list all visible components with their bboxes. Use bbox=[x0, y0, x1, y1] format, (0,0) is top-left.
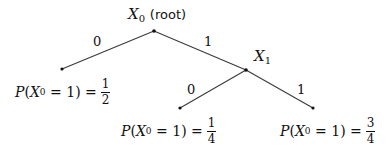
prob-equals: = bbox=[191, 124, 203, 138]
prob-fraction: 3 4 bbox=[366, 117, 376, 145]
x1-subscript: 1 bbox=[265, 55, 271, 66]
leaf-right-probability: P(X0 = 1) = 3 4 bbox=[280, 117, 375, 145]
prob-subscript: 0 bbox=[40, 88, 46, 97]
edge-root-left bbox=[62, 31, 154, 69]
node-leaf-right bbox=[311, 106, 314, 109]
close-paren: ) bbox=[181, 124, 186, 138]
prob-equals: = bbox=[350, 124, 362, 138]
close-paren: ) bbox=[340, 124, 345, 138]
node-root bbox=[152, 29, 156, 33]
edge-label-x1-right: 1 bbox=[297, 83, 305, 96]
node-leaf-left bbox=[60, 67, 63, 70]
prob-subscript: 0 bbox=[305, 127, 311, 136]
root-node-label: X0 (root) bbox=[128, 7, 186, 24]
prob-subscript: 0 bbox=[146, 127, 152, 136]
edge-label-x1-middle: 0 bbox=[187, 83, 195, 96]
node-x1 bbox=[244, 68, 248, 72]
prob-func: P bbox=[280, 124, 289, 138]
node-leaf-middle bbox=[178, 106, 181, 109]
edge-root-x1 bbox=[154, 31, 246, 70]
prob-condition: = 1 bbox=[156, 124, 181, 138]
edge-label-root-x1: 1 bbox=[204, 35, 212, 48]
prob-func: P bbox=[15, 85, 24, 99]
x1-variable: X bbox=[254, 47, 265, 65]
prob-fraction: 1 4 bbox=[207, 117, 217, 145]
x1-node-label: X1 bbox=[254, 49, 271, 66]
prob-variable: X bbox=[30, 85, 40, 99]
fraction-numerator: 3 bbox=[366, 117, 376, 132]
edge-label-root-left: 0 bbox=[93, 35, 101, 48]
prob-fraction: 1 2 bbox=[101, 78, 111, 106]
root-subscript: 0 bbox=[139, 13, 145, 24]
prob-func: P bbox=[121, 124, 130, 138]
fraction-denominator: 2 bbox=[102, 93, 110, 107]
root-suffix: (root) bbox=[150, 7, 186, 22]
prob-condition: = 1 bbox=[50, 85, 75, 99]
fraction-numerator: 1 bbox=[207, 117, 217, 132]
prob-condition: = 1 bbox=[315, 124, 340, 138]
fraction-denominator: 4 bbox=[208, 132, 216, 146]
leaf-left-probability: P(X0 = 1) = 1 2 bbox=[15, 78, 110, 106]
fraction-denominator: 4 bbox=[367, 132, 375, 146]
root-variable: X bbox=[128, 5, 139, 23]
leaf-middle-probability: P(X0 = 1) = 1 4 bbox=[121, 117, 216, 145]
close-paren: ) bbox=[75, 85, 80, 99]
fraction-numerator: 1 bbox=[101, 78, 111, 93]
prob-variable: X bbox=[295, 124, 305, 138]
prob-variable: X bbox=[136, 124, 146, 138]
prob-equals: = bbox=[85, 85, 97, 99]
